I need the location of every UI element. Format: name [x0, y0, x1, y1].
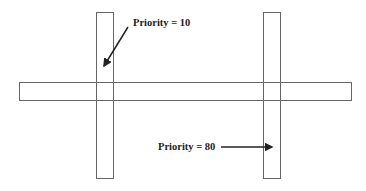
priority-80-label: Priority = 80: [158, 141, 215, 152]
arrows-layer: [0, 0, 366, 191]
priority-10-label: Priority = 10: [133, 17, 190, 28]
arrow-icon: [104, 27, 128, 66]
